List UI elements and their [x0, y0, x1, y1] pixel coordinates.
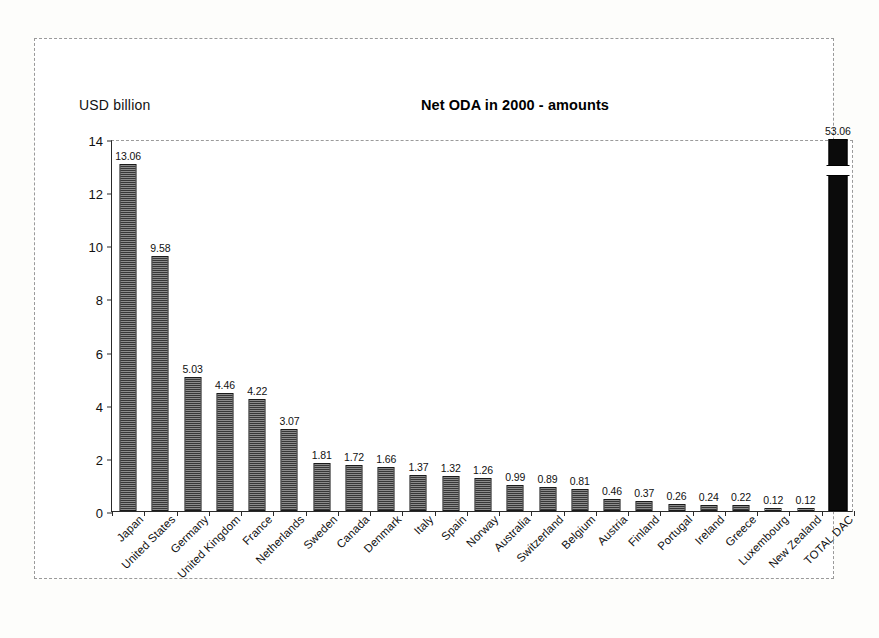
- bar-slot: 1.72: [338, 141, 370, 511]
- bar-slot: 13.06: [112, 141, 144, 511]
- bar-value-label: 9.58: [150, 242, 170, 254]
- bar: [733, 505, 750, 511]
- bar: [765, 508, 782, 511]
- bar: [797, 508, 814, 511]
- bar-value-label: 1.26: [473, 464, 493, 476]
- x-axis-label: Austria: [595, 513, 629, 547]
- bar-value-label: 53.06: [825, 125, 851, 137]
- bar-slot: 1.66: [370, 141, 402, 511]
- x-axis-label: Portugal: [655, 513, 694, 552]
- bar: [700, 505, 717, 511]
- bar-value-label: 1.66: [376, 453, 396, 465]
- x-axis-category-labels: JapanUnited StatesGermanyUnited KingdomF…: [111, 513, 853, 613]
- bar-slot: 0.26: [660, 141, 692, 511]
- bar-value-label: 1.37: [408, 461, 428, 473]
- bar-value-label: 5.03: [183, 363, 203, 375]
- bar-value-label: 0.12: [796, 494, 816, 506]
- bar: [507, 485, 524, 511]
- x-axis-label: Italy: [412, 513, 436, 537]
- x-axis-label: Spain: [439, 513, 469, 543]
- bar-value-label: 1.32: [441, 462, 461, 474]
- bar: [474, 478, 491, 511]
- bar-value-label: 4.46: [215, 379, 235, 391]
- bar-value-label: 1.72: [344, 451, 364, 463]
- bar-value-label: 0.89: [537, 473, 557, 485]
- bar-slot: 9.58: [144, 141, 176, 511]
- y-axis-unit-label: USD billion: [79, 97, 150, 113]
- bar-value-label: 13.06: [115, 150, 141, 162]
- bar: [604, 499, 621, 511]
- bar: [571, 489, 588, 511]
- bar: [120, 164, 137, 511]
- bar-slot: 4.22: [241, 141, 273, 511]
- bar-value-label: 0.22: [731, 491, 751, 503]
- bar-slot: 1.32: [435, 141, 467, 511]
- bar: [281, 429, 298, 511]
- scanned-page: USD billion Net ODA in 2000 - amounts 02…: [0, 0, 879, 638]
- bar-slot: 0.12: [789, 141, 821, 511]
- bar-value-label: 0.12: [763, 494, 783, 506]
- x-axis-tick-mark: [854, 511, 855, 516]
- chart-object-frame: USD billion Net ODA in 2000 - amounts 02…: [34, 38, 834, 579]
- x-axis-label: Belgium: [559, 513, 597, 551]
- bar-value-label: 0.37: [634, 487, 654, 499]
- bar-value-label: 0.46: [602, 485, 622, 497]
- bar-slot: 1.37: [402, 141, 434, 511]
- bar: [636, 501, 653, 511]
- bar-slot: 53.06: [822, 141, 854, 511]
- bar-slot: 4.46: [209, 141, 241, 511]
- bar-slot: 3.07: [273, 141, 305, 511]
- bar-slot: 5.03: [177, 141, 209, 511]
- bar: [668, 504, 685, 511]
- bar-slot: 1.26: [467, 141, 499, 511]
- plot-area: 02468101214 13.069.585.034.464.223.071.8…: [111, 140, 853, 512]
- bar-slot: 0.24: [693, 141, 725, 511]
- bar: [410, 475, 427, 511]
- bar-slot: 0.12: [757, 141, 789, 511]
- bar: [249, 399, 266, 511]
- chart-title: Net ODA in 2000 - amounts: [335, 97, 695, 113]
- bar-slot: 0.37: [628, 141, 660, 511]
- bar: [216, 393, 233, 512]
- bar-slot: 0.46: [596, 141, 628, 511]
- bar: [184, 377, 201, 511]
- bar-value-label: 1.81: [312, 449, 332, 461]
- bar: [442, 476, 459, 511]
- bar: [378, 467, 395, 511]
- bar-slot: 0.81: [564, 141, 596, 511]
- bar-value-label: 0.26: [667, 490, 687, 502]
- bar-value-label: 3.07: [279, 415, 299, 427]
- bar-slot: 0.22: [725, 141, 757, 511]
- bar-value-label: 0.81: [570, 475, 590, 487]
- x-axis-label: Sweden: [301, 513, 339, 551]
- axis-break-marker: [826, 165, 849, 176]
- bar: [345, 465, 362, 511]
- bar-slot: 0.89: [531, 141, 563, 511]
- bar-slot: 1.81: [306, 141, 338, 511]
- bar-series: 13.069.585.034.464.223.071.811.721.661.3…: [112, 141, 852, 511]
- bar: [539, 487, 556, 511]
- x-axis-label: Ireland: [692, 513, 726, 547]
- bar-total-dac: [828, 139, 847, 511]
- bar-slot: 0.99: [499, 141, 531, 511]
- bar-value-label: 0.24: [699, 491, 719, 503]
- bar-value-label: 0.99: [505, 471, 525, 483]
- bar-value-label: 4.22: [247, 385, 267, 397]
- bar: [313, 463, 330, 511]
- bar: [152, 256, 169, 511]
